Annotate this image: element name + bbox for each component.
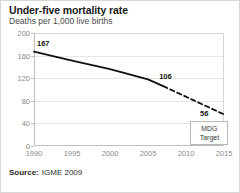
x-tick-label: 2005 xyxy=(140,149,157,158)
y-tick-label: 120 xyxy=(17,74,30,83)
chart-figure: Under-five mortality rate Deaths per 1,0… xyxy=(0,0,240,193)
x-tick-label: 2000 xyxy=(102,149,119,158)
y-tick-label: 200 xyxy=(17,29,30,38)
x-axis: 199019952000200520102015 xyxy=(34,149,224,161)
y-tick-mark xyxy=(31,146,34,147)
data-point-label: 106 xyxy=(159,72,172,81)
data-point-label: 56 xyxy=(200,109,208,118)
x-tick-label: 1990 xyxy=(26,149,43,158)
chart-subtitle: Deaths per 1,000 live births xyxy=(9,16,112,26)
source-value: IGME 2009 xyxy=(42,168,82,177)
x-tick-label: 2015 xyxy=(216,149,233,158)
source-label: Source: xyxy=(9,168,39,177)
x-tick-label: 2010 xyxy=(178,149,195,158)
line-projected xyxy=(163,86,224,114)
source-note: Source:IGME 2009 xyxy=(9,168,82,177)
y-tick-label: 160 xyxy=(17,51,30,60)
x-tick-label: 1995 xyxy=(64,149,81,158)
y-tick-label: 40 xyxy=(22,119,30,128)
mdg-label-line1: MDG xyxy=(191,125,227,134)
y-axis: 04080120160200 xyxy=(9,33,30,146)
mdg-label-line2: Target xyxy=(191,134,227,143)
line-observed xyxy=(34,52,163,86)
page-title: Under-five mortality rate xyxy=(9,4,128,16)
mdg-target-callout: MDG Target xyxy=(190,121,228,145)
data-point-label: 167 xyxy=(37,39,50,48)
y-tick-label: 80 xyxy=(22,96,30,105)
